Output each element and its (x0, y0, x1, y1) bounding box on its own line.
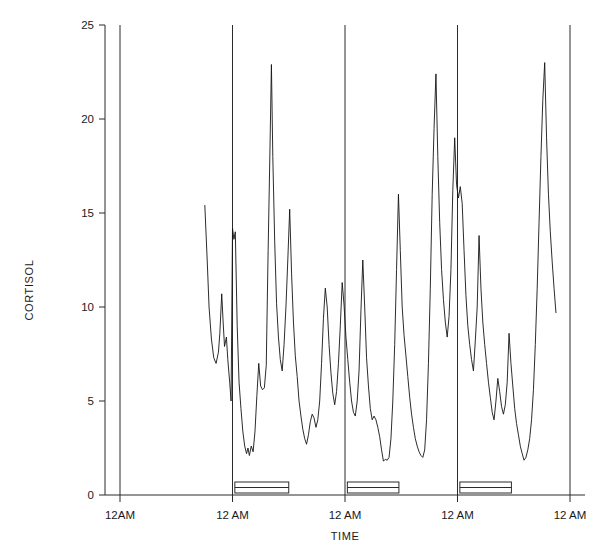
x-tick-label-4: 12 AM (554, 509, 587, 521)
y-tick-label-0: 0 (88, 489, 94, 501)
x-axis-tick-labels: 12AM12 AM12 AM12 AM12 AM (105, 509, 586, 521)
x-tick-label-1: 12 AM (216, 509, 249, 521)
y-tick-label-2: 10 (81, 301, 94, 313)
y-tick-label-1: 5 (88, 395, 94, 407)
y-axis-ticks (99, 25, 105, 495)
x-tick-label-2: 12 AM (329, 509, 362, 521)
axes (99, 25, 585, 502)
chart-canvas: 0510152025 12AM12 AM12 AM12 AM12 AM CORT… (0, 0, 601, 557)
cortisol-series-line (205, 63, 556, 462)
y-tick-label-5: 25 (81, 19, 94, 31)
x-axis-title: TIME (331, 530, 360, 542)
x-tick-label-3: 12 AM (441, 509, 474, 521)
y-tick-label-3: 15 (81, 207, 94, 219)
vertical-grid-lines (120, 25, 570, 495)
y-axis-title: CORTISOL (23, 260, 35, 321)
y-axis-tick-labels: 0510152025 (81, 19, 94, 501)
y-tick-label-4: 20 (81, 113, 94, 125)
x-axis-ticks (120, 495, 570, 502)
cortisol-chart: 0510152025 12AM12 AM12 AM12 AM12 AM CORT… (0, 0, 601, 557)
x-tick-label-0: 12AM (105, 509, 135, 521)
sleep-period-bars (235, 482, 512, 493)
